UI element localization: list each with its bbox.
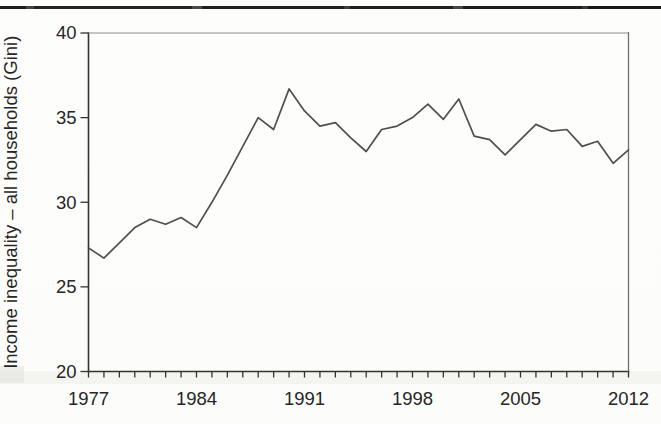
x-tick-label: 1984 bbox=[176, 388, 217, 409]
y-tick-label: 35 bbox=[56, 107, 77, 128]
gini-series-line bbox=[89, 89, 629, 258]
y-tick-label: 20 bbox=[56, 361, 77, 382]
gini-line-chart: 2025303540197719841991199820052012Income… bbox=[0, 0, 661, 424]
y-axis-title: Income inequality – all households (Gini… bbox=[0, 36, 21, 369]
x-tick-label: 1998 bbox=[392, 388, 433, 409]
x-tick-label: 1977 bbox=[68, 388, 109, 409]
x-tick-label: 1991 bbox=[284, 388, 325, 409]
scanned-page: 2025303540197719841991199820052012Income… bbox=[0, 0, 661, 424]
y-tick-label: 30 bbox=[56, 192, 77, 213]
x-tick-label: 2012 bbox=[608, 388, 649, 409]
y-tick-label: 25 bbox=[56, 276, 77, 297]
x-tick-label: 2005 bbox=[500, 388, 541, 409]
y-tick-label: 40 bbox=[56, 22, 77, 43]
